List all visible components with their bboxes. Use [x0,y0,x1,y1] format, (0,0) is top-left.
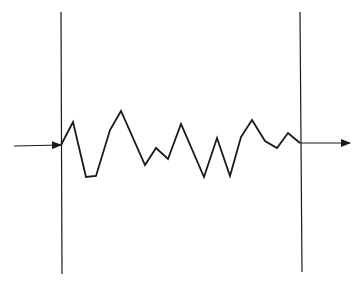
right-boundary-line [300,12,302,272]
waveform-line [61,111,300,177]
input-arrow [14,145,61,146]
diagram-svg [0,0,359,285]
diagram-canvas [0,0,359,285]
